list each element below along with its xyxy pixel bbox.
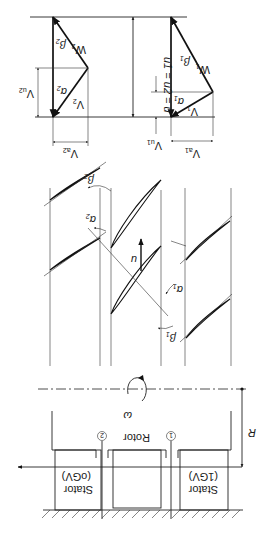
omega-label: ω: [123, 410, 132, 422]
beta2-label: β2: [84, 173, 95, 186]
igv-blade-upper: [186, 221, 230, 260]
blade-cascade: [44, 162, 232, 366]
w1-label: W1: [196, 63, 210, 76]
velocity-triangles: [30, 17, 215, 146]
vu1-label: Vu1: [147, 139, 162, 152]
blade-speed-equation: u1 = u2 = u: [162, 57, 174, 113]
radius-label: R: [248, 427, 256, 439]
alpha1-tri-label: α1: [174, 95, 184, 108]
rotor-hub-box: [113, 450, 161, 508]
beta1-arc: [158, 326, 173, 329]
inlet-stator-label: Stator: [188, 484, 218, 496]
alpha1-label: α1: [173, 283, 183, 296]
inlet-stator-sublabel: (1GV): [189, 471, 218, 483]
outlet-stator-sublabel: (oGV): [62, 471, 91, 483]
ground-hatch: [42, 510, 240, 518]
inlet-stator-casing: [178, 450, 231, 458]
va1-label: Va1: [185, 147, 200, 160]
blade-speed-label: u: [131, 254, 137, 266]
vu2-label: Vu2: [19, 87, 34, 100]
meridional-view: [18, 375, 246, 519]
w2-label: W2: [72, 43, 86, 56]
alpha2-label: α2: [86, 213, 96, 226]
v1-label: V1: [187, 105, 198, 118]
beta2-tri-label: β2: [56, 38, 67, 51]
station-1-label: 1: [169, 432, 173, 439]
rotor-label: Rotor: [123, 432, 150, 444]
inlet-w1-vector: [171, 17, 213, 92]
igv-blade-lower: [186, 299, 230, 338]
beta1-tri-label: β1: [180, 55, 191, 68]
alpha2-tri-label: α2: [57, 85, 67, 98]
compressor-stage-diagram: Stator (1GV) Rotor Stator (oGV) 1 2 ω R: [0, 0, 266, 546]
va2-label: Va2: [63, 147, 78, 160]
alpha1-arc: [166, 284, 174, 294]
beta1-label: β1: [166, 331, 177, 344]
v2-label: V2: [73, 98, 84, 111]
rotor-casing: [108, 450, 166, 458]
rotor-blade-lower: [111, 180, 161, 248]
outlet-stator-label: Stator: [63, 484, 93, 496]
outlet-stator-casing: [52, 411, 96, 458]
station-2-label: 2: [100, 432, 104, 439]
